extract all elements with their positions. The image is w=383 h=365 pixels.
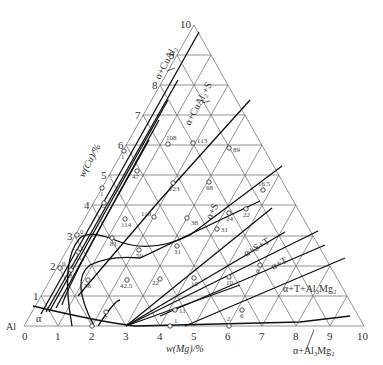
svg-text:22: 22 [243,211,251,219]
svg-text:10: 10 [357,330,369,342]
svg-text:0: 0 [90,316,94,324]
phase-labels: α α+CuAl₂ α+CuAl₂+S α+S α+S+T α+T α+T+Al… [36,44,337,356]
svg-text:68: 68 [206,184,214,192]
label-alpha-s-t: α+S+T [242,235,272,259]
cu-axis-title: w(Cu)/% [76,142,104,180]
svg-text:7: 7 [104,314,108,322]
label-alpha-t-al3mg2: α+T+Al₃Mg₂ [283,283,337,294]
svg-text:5: 5 [191,330,197,342]
svg-text:114: 114 [121,221,132,229]
label-alpha: α [36,313,42,324]
svg-text:16.5: 16.5 [258,180,271,188]
svg-text:6: 6 [240,312,244,320]
svg-text:38: 38 [191,219,199,227]
svg-text:8: 8 [152,79,158,91]
svg-text:118: 118 [141,210,152,218]
svg-text:8: 8 [69,272,73,280]
svg-text:4: 4 [84,199,90,211]
svg-text:7: 7 [135,109,141,121]
svg-text:0: 0 [22,330,28,342]
svg-text:24: 24 [226,215,234,223]
svg-text:0: 0 [80,228,84,236]
svg-text:42.5: 42.5 [120,282,133,290]
phase-boundaries [33,32,350,350]
svg-text:56: 56 [84,282,92,290]
svg-text:22: 22 [152,279,160,287]
svg-text:2: 2 [227,315,231,323]
svg-text:81: 81 [110,240,118,248]
svg-text:11: 11 [75,254,82,262]
label-alpha-cual2-s: α+CuAl₂+S [182,80,214,127]
svg-text:1: 1 [55,330,61,342]
svg-text:0: 0 [62,260,66,268]
svg-text:3: 3 [67,230,73,242]
label-alpha-t: α+T [269,254,289,272]
svg-text:2: 2 [50,260,56,272]
svg-text:5: 5 [101,169,107,181]
corner-label-al: Al [6,321,16,332]
svg-text:31: 31 [174,248,182,256]
svg-text:10: 10 [180,18,192,30]
svg-text:9: 9 [327,330,333,342]
svg-text:47: 47 [132,173,140,181]
svg-text:31: 31 [221,226,229,234]
svg-text:1: 1 [121,153,125,161]
label-alpha-al3mg2: α+Al₃Mg₂ [293,345,335,356]
label-alpha-s: α+S [203,201,220,221]
mg-axis-title: w(Mg)/% [166,343,204,355]
svg-text:108: 108 [166,134,177,142]
svg-text:123: 123 [169,185,180,193]
svg-text:1: 1 [33,290,39,302]
svg-text:10: 10 [226,279,234,287]
svg-text:4: 4 [157,330,163,342]
svg-text:2: 2 [89,330,95,342]
svg-text:11: 11 [179,307,186,315]
svg-text:1: 1 [174,317,178,325]
svg-text:1: 1 [100,190,104,198]
mg-axis-ticks: 0 1 2 3 4 5 6 7 8 9 10 [22,330,369,342]
svg-text:3: 3 [123,330,129,342]
svg-text:7: 7 [259,330,265,342]
svg-text:10: 10 [191,280,199,288]
ternary-phase-diagram: 0 1 2 3 4 5 6 7 8 9 10 1 2 3 4 5 6 7 8 9… [0,0,383,365]
svg-text:113: 113 [197,137,208,145]
svg-text:7: 7 [102,205,106,213]
svg-text:6: 6 [225,330,231,342]
svg-text:89: 89 [233,146,241,154]
svg-text:8: 8 [293,330,299,342]
svg-text:59: 59 [136,252,144,260]
svg-text:8: 8 [256,267,260,275]
